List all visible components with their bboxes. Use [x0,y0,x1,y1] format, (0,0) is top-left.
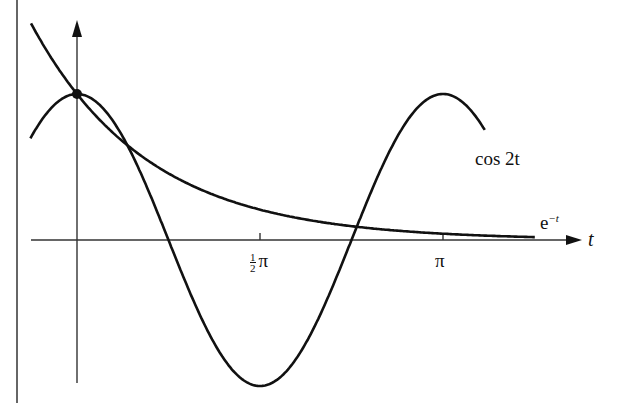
tick-label-pi: π [435,250,445,272]
pi-symbol: π [259,250,269,271]
fraction-denominator: 2 [250,263,256,273]
intersection-point [72,89,82,99]
fraction-half: 12 [250,252,256,273]
exp-label: e−t [540,212,559,234]
exp-neg-t-curve [31,23,535,237]
plot-canvas [0,0,621,403]
cos-label-text: cos 2t [475,148,520,169]
x-axis-label: t [588,228,594,251]
tick-label-half-pi: 12π [250,250,268,273]
exp-label-exponent: −t [548,212,558,224]
x-axis-arrow-icon [566,235,582,245]
cos-label: cos 2t [475,148,520,170]
y-axis-arrow-icon [72,20,82,37]
